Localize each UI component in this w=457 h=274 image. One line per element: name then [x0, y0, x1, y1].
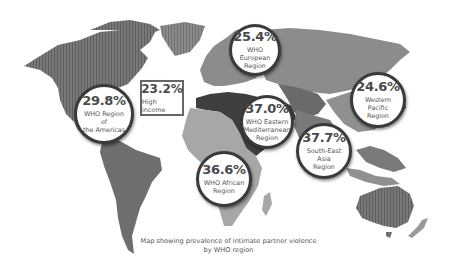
- region-bubble-europe: 25.4% WHO EuropeanRegion: [229, 24, 281, 76]
- region-value: 37.7%: [302, 131, 346, 145]
- region-bubble-south-east-asia: 37.7% South-East AsiaRegion: [296, 123, 352, 179]
- region-se-asia-islands: [356, 146, 406, 172]
- region-value: 23.2%: [141, 83, 183, 96]
- map-caption: Map showing prevalence of intimate partn…: [0, 237, 457, 255]
- region-madagascar: [262, 192, 272, 216]
- region-greenland: [160, 22, 205, 56]
- region-value: 24.6%: [356, 80, 400, 94]
- region-value: 29.8%: [82, 94, 126, 108]
- region-value: 25.4%: [233, 30, 277, 44]
- region-label: WHO EasternMediterraneanRegion: [240, 118, 295, 142]
- region-label: Western PacificRegion: [353, 96, 403, 120]
- world-map: [0, 0, 457, 274]
- region-bubble-americas: 29.8% WHO Region ofthe Americas: [74, 84, 134, 144]
- region-label: WHO AfricanRegion: [200, 179, 248, 195]
- region-label: South-East AsiaRegion: [299, 147, 349, 171]
- region-new-zealand: [408, 218, 428, 238]
- region-label: WHO Region ofthe Americas: [77, 110, 131, 134]
- region-bubble-western-pacific: 24.6% Western PacificRegion: [350, 72, 406, 128]
- region-bubble-eastern-mediterranean: 37.0% WHO EasternMediterraneanRegion: [240, 95, 294, 149]
- region-value: 37.0%: [245, 102, 289, 116]
- region-label: WHO EuropeanRegion: [232, 46, 278, 70]
- region-label: High income: [142, 98, 182, 114]
- region-australia: [356, 186, 414, 228]
- region-box-high-income: 23.2% High income: [140, 80, 184, 116]
- region-value: 36.6%: [202, 163, 246, 177]
- region-bubble-africa: 36.6% WHO AfricanRegion: [196, 151, 252, 207]
